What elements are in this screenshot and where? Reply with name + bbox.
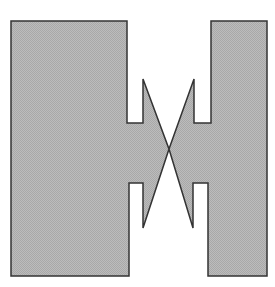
diagram-canvas <box>0 0 275 287</box>
